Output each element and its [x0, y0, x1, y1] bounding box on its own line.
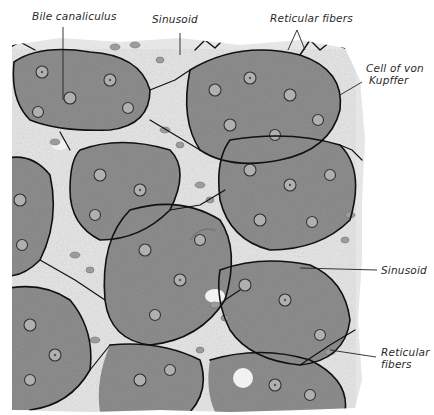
- liver-histology-figure: Bile canaliculus Sinusoid Reticular fibe…: [0, 0, 434, 415]
- label-reticular-line1: Reticular: [381, 346, 430, 358]
- label-reticular-line2: fibers: [381, 358, 430, 370]
- label-bile-canaliculus: Bile canaliculus: [32, 10, 117, 22]
- label-kupffer-line2: Kupffer: [366, 74, 424, 86]
- label-reticular-fibers-right: Reticular fibers: [381, 346, 430, 370]
- tissue-area: [0, 30, 370, 415]
- label-sinusoid-top: Sinusoid: [152, 13, 198, 25]
- label-kupffer-line1: Cell of von: [366, 62, 424, 74]
- label-cell-of-von-kupffer: Cell of von Kupffer: [366, 62, 424, 86]
- label-reticular-fibers-top: Reticular fibers: [270, 12, 353, 24]
- label-sinusoid-right: Sinusoid: [381, 264, 427, 276]
